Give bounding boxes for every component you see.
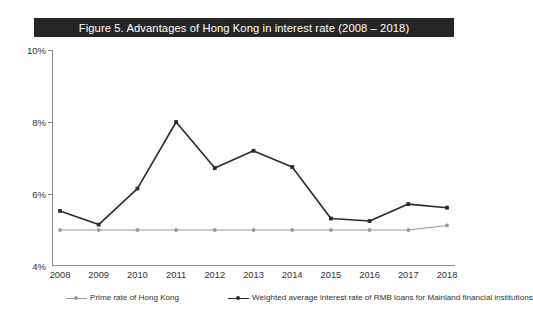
- y-axis-tick-label: 8%: [32, 117, 46, 128]
- legend-dot-icon: [236, 296, 240, 300]
- legend-item-prime-rate: Prime rate of Hong Kong: [66, 294, 179, 302]
- legend-label-prime-rate: Prime rate of Hong Kong: [90, 294, 179, 302]
- y-axis-tick-label: 6%: [32, 189, 46, 200]
- y-axis-tick-mark: [48, 50, 52, 51]
- legend-line-marker-icon: [228, 294, 249, 302]
- x-axis-tick-label: 2012: [204, 270, 225, 280]
- plot-area: [52, 50, 455, 266]
- y-axis-tick-mark: [48, 122, 52, 123]
- y-axis-tick-label: 10%: [27, 45, 46, 56]
- x-axis-tick-label: 2016: [359, 270, 380, 280]
- chart-legend: Prime rate of Hong Kong Weighted average…: [52, 290, 455, 306]
- legend-dot-icon: [74, 296, 78, 300]
- x-axis-tick-label: 2010: [127, 270, 148, 280]
- x-axis-tick-label: 2009: [88, 270, 109, 280]
- legend-label-rmb-loan-rate: Weighted average interest rate of RMB lo…: [252, 294, 533, 302]
- x-axis-tick-label: 2013: [243, 270, 264, 280]
- legend-line-marker-icon: [66, 294, 87, 302]
- x-axis-tick-label: 2014: [282, 270, 303, 280]
- y-axis-tick-mark: [48, 194, 52, 195]
- x-axis-tick-label: 2017: [398, 270, 419, 280]
- y-axis-tick-label: 4%: [32, 261, 46, 272]
- x-axis-tick-label: 2011: [166, 270, 186, 280]
- figure-title: Figure 5. Advantages of Hong Kong in int…: [79, 22, 409, 34]
- y-axis-labels: 4%6%8%10%: [0, 50, 46, 266]
- figure-title-bar: Figure 5. Advantages of Hong Kong in int…: [34, 18, 454, 37]
- x-axis-tick-label: 2008: [50, 270, 71, 280]
- legend-item-rmb-loan-rate: Weighted average interest rate of RMB lo…: [228, 294, 533, 302]
- x-axis-tick-label: 2015: [321, 270, 342, 280]
- x-axis-tick-label: 2018: [437, 270, 458, 280]
